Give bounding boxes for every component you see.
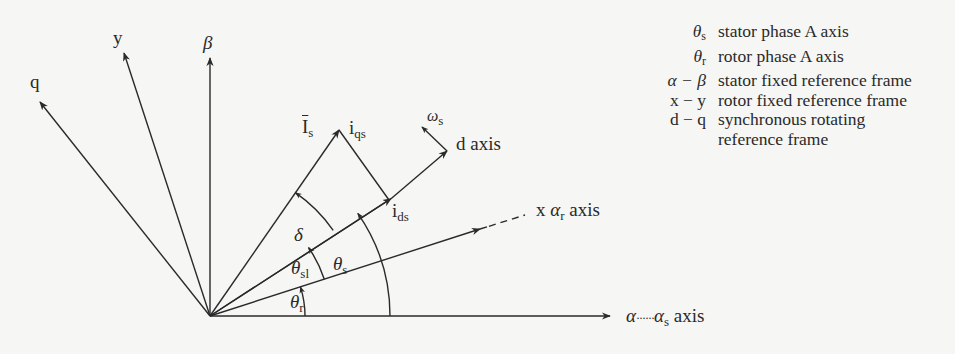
q-axis-line [40,102,210,316]
beta-label: β [203,33,212,52]
omega-arrow [422,127,447,151]
legend-row: reference frame [630,130,912,150]
is-label: Is [302,117,313,139]
alpha-axis-label: α······αs axis [626,306,704,328]
ids-label: ids [392,201,409,223]
theta-sl-label: θsl [291,258,309,280]
d-axis-label: d axis [456,134,501,153]
legend-row: θrrotor phase A axis [630,47,912,72]
legend-row: α − βstator fixed reference frame [630,71,912,91]
y-label: y [113,28,123,47]
theta-r-label: θr [290,292,304,314]
legend-row: x − yrotor fixed reference frame [630,91,912,111]
x-axis-dashed [489,215,525,226]
y-axis-line [124,53,210,316]
delta-label: δ [294,225,303,244]
x-axis-label: x αr axis [536,200,600,222]
omega-label: ωs [427,108,443,127]
legend: θsstator phase A axis θrrotor phase A ax… [630,22,912,149]
legend-row: θsstator phase A axis [630,22,912,47]
q-label: q [30,72,40,91]
is-vector [210,130,339,316]
legend-row: d − qsynchronous rotating [630,110,912,130]
theta-s-label: θs [333,254,347,276]
theta-s-arc [358,213,390,316]
theta-sl-arc [309,248,325,280]
iqs-label: iqs [349,118,366,140]
